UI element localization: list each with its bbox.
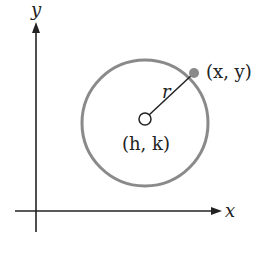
radius-line	[149, 73, 194, 115]
center-label: (h, k)	[122, 133, 170, 154]
radius-label: r	[162, 81, 172, 102]
y-axis-label: y	[30, 0, 42, 20]
y-axis	[32, 22, 40, 232]
point-label: (x, y)	[206, 61, 252, 82]
x-axis-label: x	[225, 200, 235, 221]
point-on-circle	[189, 68, 199, 78]
center-point	[139, 113, 151, 125]
circle-diagram: y x r (x, y) (h, k)	[0, 0, 257, 253]
x-axis	[15, 207, 222, 215]
